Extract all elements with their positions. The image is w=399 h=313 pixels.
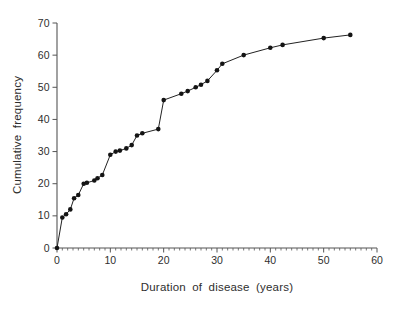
chart-plot-area: 0102030405060010203040506070 [38,17,383,266]
y-tick-label: 50 [38,81,50,93]
x-tick-label: 10 [104,254,116,266]
cumulative-frequency-chart: 0102030405060010203040506070 Duration of… [0,0,399,313]
data-point [348,33,353,38]
data-point [95,176,100,181]
data-point [268,46,273,51]
data-point [135,133,140,138]
data-point [55,246,60,251]
chart-canvas: 0102030405060010203040506070 Duration of… [0,0,399,313]
data-point [215,68,220,73]
data-point [193,85,198,90]
data-line [57,35,350,248]
y-tick-label: 10 [38,209,50,221]
data-point [129,143,134,148]
data-point [72,196,77,201]
data-point [108,153,113,158]
y-tick-label: 0 [44,242,50,254]
data-point [280,43,285,48]
x-tick-label: 50 [318,254,330,266]
y-tick-label: 70 [38,17,50,29]
data-point [113,149,118,154]
y-tick-label: 30 [38,145,50,157]
data-point [321,36,326,41]
x-tick-label: 20 [158,254,170,266]
data-point [68,207,73,212]
y-tick-label: 20 [38,177,50,189]
data-point [60,215,65,220]
data-point [179,91,184,96]
data-point [140,131,145,136]
data-point [220,62,225,67]
data-point [161,98,166,103]
data-point [76,193,81,198]
data-point [100,173,105,178]
x-axis-title: Duration of disease (years) [141,281,293,293]
x-tick-label: 60 [371,254,383,266]
data-point [64,212,69,217]
figure-page: 0102030405060010203040506070 Duration of… [0,0,399,313]
data-point [124,146,129,151]
data-point [85,181,90,186]
data-point [185,89,190,94]
x-tick-label: 40 [264,254,276,266]
data-point [156,127,161,132]
y-axis-title: Cumulative frequency [11,76,23,194]
y-tick-label: 60 [38,49,50,61]
y-tick-label: 40 [38,113,50,125]
x-tick-label: 0 [54,254,60,266]
data-point [205,79,210,84]
data-point [118,148,123,153]
x-tick-label: 30 [211,254,223,266]
data-point [199,82,204,87]
data-point [241,53,246,58]
